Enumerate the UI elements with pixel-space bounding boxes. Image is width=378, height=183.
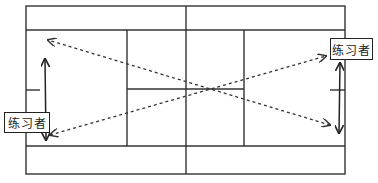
tennis-court-diagram xyxy=(0,0,378,183)
player-label-right: 练习者 xyxy=(330,38,373,60)
right-player-movement-arrow xyxy=(339,63,340,133)
movement-arrows xyxy=(45,59,340,140)
shot-paths xyxy=(48,40,330,135)
court-lines xyxy=(26,6,345,174)
diagonal-shot-1 xyxy=(48,40,330,125)
diagonal-shot-2 xyxy=(50,56,326,135)
player-label-left: 练习者 xyxy=(4,112,50,133)
